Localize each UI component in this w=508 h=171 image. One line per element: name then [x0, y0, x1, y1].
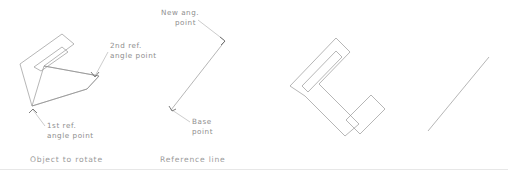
rotate-reference-diagram: 2nd ref. angle point 1st ref. angle poin… [0, 0, 508, 171]
base-point-label-line2: point [192, 127, 213, 136]
annotation-base-point: Base point [169, 106, 213, 136]
caption-object-to-rotate: Object to rotate [30, 155, 103, 164]
rotated-outer-c-path [290, 38, 359, 136]
first-ref-arrow-icon [29, 109, 37, 113]
result-diagonal-line-path [428, 57, 489, 131]
panel-object-to-rotate: 2nd ref. angle point 1st ref. angle poin… [20, 34, 157, 164]
panel-reference-line: New ang. point Base point Reference line [160, 8, 226, 164]
rotated-inner-notch-path [302, 51, 342, 92]
second-ref-leader-line [95, 52, 108, 76]
annotation-first-ref-angle-point: 1st ref. angle point [29, 109, 94, 140]
first-ref-leader-line [33, 110, 45, 126]
caption-reference-line: Reference line [160, 155, 226, 164]
base-point-label-line1: Base [192, 117, 212, 126]
second-ref-label-line1: 2nd ref. [110, 41, 142, 50]
panel-rotated-object [290, 38, 385, 136]
first-ref-label-line2: angle point [47, 131, 94, 140]
panel-result-line [428, 57, 489, 131]
annotation-new-angle-point: New ang. point [161, 8, 225, 45]
second-ref-label-line2: angle point [110, 51, 157, 60]
annotation-second-ref-angle-point: 2nd ref. angle point [91, 41, 157, 77]
object-outer-c-path [20, 34, 99, 106]
new-angle-arrow-icon [220, 37, 225, 45]
base-point-leader-line [172, 110, 190, 122]
object-mid-band-path [32, 66, 99, 106]
new-angle-label-line1: New ang. [161, 8, 199, 17]
rotated-outer-arm-path [346, 95, 385, 134]
new-angle-label-line2: point [175, 18, 196, 27]
reference-line-bend-path [171, 41, 225, 110]
first-ref-label-line1: 1st ref. [47, 121, 76, 130]
